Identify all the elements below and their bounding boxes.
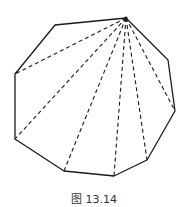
diagonal-2 (15, 18, 126, 139)
diagonal-1 (15, 18, 126, 74)
diagonal-3 (64, 18, 126, 171)
diagonal-4 (114, 18, 126, 176)
nonagon-triangulation-diagram (0, 0, 188, 207)
nonagon-outline (15, 18, 175, 176)
figure-caption: 图 13.14 (0, 190, 188, 206)
diagonal-5 (126, 18, 147, 160)
apex-vertex (124, 16, 127, 19)
diagonal-6 (126, 18, 175, 111)
